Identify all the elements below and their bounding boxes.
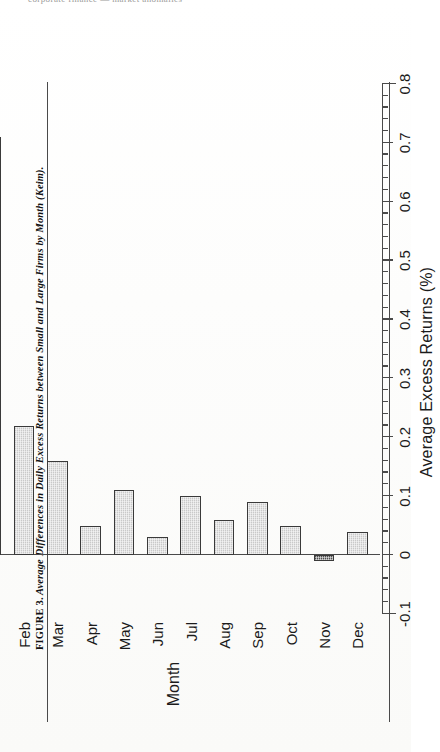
- value-axis-minor-tick: [382, 342, 388, 343]
- value-axis-minor-tick: [382, 519, 388, 520]
- category-label-oct: Oct: [282, 622, 299, 645]
- top-fragment-text: corporate finance — market anomalies: [28, 0, 182, 4]
- value-axis-minor-tick: [382, 365, 388, 366]
- category-label-may: May: [116, 622, 133, 650]
- bar-chart: JanFebMarAprMayJunJulAugSepOctNovDecMont…: [0, 52, 440, 692]
- value-axis-tick-label: 0.8: [396, 74, 413, 95]
- value-axis-minor-tick: [382, 189, 388, 190]
- bar-aug: [214, 520, 235, 555]
- bar-jan: [0, 137, 1, 555]
- value-axis-minor-tick: [382, 106, 388, 107]
- value-axis-minor-tick: [382, 601, 388, 602]
- value-axis-minor-tick: [382, 248, 388, 249]
- value-axis-title: Average Excess Returns (%): [418, 52, 436, 692]
- value-axis-tick: [382, 613, 396, 614]
- bar-may: [114, 490, 135, 555]
- value-axis-minor-tick: [382, 165, 388, 166]
- value-axis-minor-tick: [382, 413, 388, 414]
- category-label-jun: Jun: [149, 622, 166, 646]
- value-axis-tick-label: 0.3: [396, 368, 413, 389]
- value-axis-tick: [382, 201, 393, 202]
- value-axis-tick-label: 0.6: [396, 191, 413, 212]
- value-axis-minor-tick: [382, 295, 388, 296]
- value-axis-minor-tick: [382, 212, 388, 213]
- value-axis-minor-tick: [382, 224, 388, 225]
- value-axis-minor-tick: [382, 130, 388, 131]
- value-axis-tick-label: 0.2: [396, 427, 413, 448]
- bar-jul: [180, 496, 201, 555]
- category-label-aug: Aug: [216, 622, 233, 649]
- bar-jun: [147, 537, 168, 555]
- value-axis-tick-label: 0.1: [396, 486, 413, 507]
- value-axis-tick: [382, 436, 393, 437]
- category-label-apr: Apr: [82, 622, 99, 645]
- value-axis-minor-tick: [382, 507, 388, 508]
- value-axis-line: [382, 84, 383, 614]
- value-axis-tick-label: 0.7: [396, 132, 413, 153]
- value-axis-minor-tick: [382, 177, 388, 178]
- value-axis-minor-tick: [382, 401, 388, 402]
- value-axis-minor-tick: [382, 118, 388, 119]
- value-axis-minor-tick: [382, 460, 388, 461]
- bar-nov: [314, 555, 335, 561]
- bar-feb: [14, 426, 35, 556]
- value-axis-tick: [382, 495, 393, 496]
- value-axis-tick: [382, 554, 393, 555]
- value-axis-minor-tick: [382, 330, 388, 331]
- bar-mar: [47, 461, 68, 555]
- bar-oct: [280, 526, 301, 555]
- value-axis-tick-label: 0.5: [396, 250, 413, 271]
- category-axis: JanFebMarAprMayJunJulAugSepOctNovDecMont…: [0, 614, 408, 692]
- value-axis-minor-tick: [382, 389, 388, 390]
- page-top-text-fragment: corporate finance — market anomalies: [0, 0, 411, 8]
- value-axis-minor-tick: [382, 424, 388, 425]
- value-axis: Average Excess Returns (%) -0.100.10.20.…: [382, 52, 440, 692]
- value-axis-minor-tick: [382, 566, 388, 567]
- bar-dec: [347, 532, 368, 556]
- value-axis-tick: [382, 83, 396, 84]
- value-axis-minor-tick: [382, 307, 388, 308]
- value-axis-minor-tick: [382, 577, 388, 578]
- chart-rotated-stage: JanFebMarAprMayJunJulAugSepOctNovDecMont…: [0, 52, 440, 692]
- value-axis-minor-tick: [382, 542, 388, 543]
- value-axis-tick: [382, 318, 393, 319]
- category-label-mar: Mar: [49, 622, 66, 648]
- value-axis-tick-label: -0.1: [396, 601, 413, 627]
- value-axis-tick-label: 0: [396, 551, 413, 559]
- bar-sep: [247, 502, 268, 555]
- bar-apr: [80, 526, 101, 555]
- category-label-feb: Feb: [16, 622, 33, 648]
- value-axis-minor-tick: [382, 530, 388, 531]
- value-axis-minor-tick: [382, 589, 388, 590]
- value-axis-tick: [382, 377, 393, 378]
- value-axis-minor-tick: [382, 271, 388, 272]
- category-label-dec: Dec: [349, 622, 366, 649]
- value-axis-minor-tick: [382, 95, 388, 96]
- category-axis-title: Month: [165, 624, 183, 744]
- value-axis-minor-tick: [382, 471, 388, 472]
- value-axis-minor-tick: [382, 354, 388, 355]
- value-axis-minor-tick: [382, 448, 388, 449]
- value-axis-minor-tick: [382, 153, 388, 154]
- value-axis-minor-tick: [382, 236, 388, 237]
- value-axis-tick: [382, 142, 393, 143]
- category-label-nov: Nov: [316, 622, 333, 649]
- value-axis-minor-tick: [382, 283, 388, 284]
- value-axis-tick-label: 0.4: [396, 309, 413, 330]
- value-axis-tick: [382, 259, 393, 260]
- category-label-sep: Sep: [249, 622, 266, 649]
- value-axis-minor-tick: [382, 483, 388, 484]
- category-label-jul: Jul: [182, 622, 199, 641]
